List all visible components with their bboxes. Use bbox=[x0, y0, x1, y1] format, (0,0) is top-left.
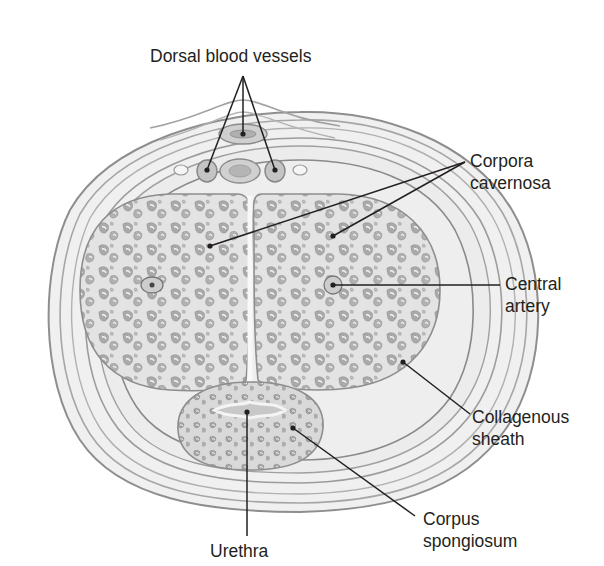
label-central-artery: Central artery bbox=[505, 273, 561, 317]
label-urethra: Urethra bbox=[210, 540, 268, 562]
corpora-cavernosa bbox=[80, 194, 440, 391]
label-line: artery bbox=[505, 295, 561, 317]
label-line: Central bbox=[505, 273, 561, 295]
label-line: Collagenous bbox=[472, 406, 569, 428]
label-collagenous-sheath: Collagenous sheath bbox=[472, 406, 569, 450]
label-line: sheath bbox=[472, 428, 569, 450]
label-dorsal-blood-vessels: Dorsal blood vessels bbox=[150, 45, 311, 67]
label-line: cavernosa bbox=[470, 172, 551, 194]
label-corpus-spongiosum: Corpus spongiosum bbox=[423, 508, 517, 552]
label-line: spongiosum bbox=[423, 530, 517, 552]
label-line: Corpora bbox=[470, 150, 551, 172]
corpus-spongiosum bbox=[178, 382, 323, 470]
label-line: Dorsal blood vessels bbox=[150, 45, 311, 67]
label-line: Urethra bbox=[210, 540, 268, 562]
label-line: Corpus bbox=[423, 508, 517, 530]
label-corpora-cavernosa: Corpora cavernosa bbox=[470, 150, 551, 194]
